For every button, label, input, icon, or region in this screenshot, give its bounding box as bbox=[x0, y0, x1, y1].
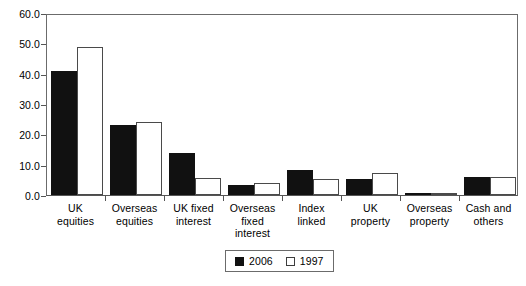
y-tick-mark bbox=[41, 135, 46, 136]
legend-swatch-filled-square-icon bbox=[235, 257, 244, 266]
y-tick-mark bbox=[41, 75, 46, 76]
bar-group bbox=[169, 15, 221, 195]
legend-label: 2006 bbox=[249, 256, 273, 267]
bar-2006-index-linked bbox=[287, 170, 313, 195]
bar-1997-uk-equities bbox=[77, 47, 103, 195]
x-axis-label: UK equities bbox=[46, 202, 105, 227]
x-axis-label: Index linked bbox=[282, 202, 341, 227]
x-axis-label: Overseas fixed interest bbox=[223, 202, 282, 240]
bar-chart: 60.0 50.0 40.0 30.0 20.0 10.0 0.0 UK equ… bbox=[0, 0, 526, 286]
x-axis-tick bbox=[341, 196, 342, 201]
bar-2006-cash-and-others bbox=[464, 177, 490, 195]
y-tick-label: 30.0 bbox=[0, 100, 40, 110]
bar-2006-overseas-property bbox=[405, 193, 431, 195]
bar-2006-overseas-fixed-interest bbox=[228, 185, 254, 195]
bar-group bbox=[228, 15, 280, 195]
bar-group bbox=[464, 15, 516, 195]
bar-group bbox=[405, 15, 457, 195]
y-tick-label: 0.0 bbox=[0, 191, 40, 201]
y-axis: 60.0 50.0 40.0 30.0 20.0 10.0 0.0 bbox=[0, 0, 40, 286]
plot-area-frame bbox=[46, 14, 518, 196]
y-tick-mark bbox=[41, 14, 46, 15]
bar-2006-overseas-equities bbox=[110, 125, 136, 195]
x-axis-tick bbox=[400, 196, 401, 201]
x-axis-label: UK fixed interest bbox=[164, 202, 223, 227]
bar-1997-overseas-property bbox=[431, 193, 457, 195]
legend-label: 1997 bbox=[300, 256, 324, 267]
legend-swatch-hollow-square-icon bbox=[286, 257, 295, 266]
x-axis-label: Overseas property bbox=[400, 202, 459, 227]
x-axis-tick bbox=[164, 196, 165, 201]
bar-1997-index-linked bbox=[313, 179, 339, 195]
bar-1997-overseas-equities bbox=[136, 122, 162, 195]
y-tick-mark bbox=[41, 105, 46, 106]
y-tick-label: 50.0 bbox=[0, 39, 40, 49]
x-axis-tick bbox=[282, 196, 283, 201]
bar-1997-cash-and-others bbox=[490, 177, 516, 195]
plot-area bbox=[47, 15, 517, 195]
bar-2006-uk-fixed-interest bbox=[169, 153, 195, 195]
bar-group bbox=[346, 15, 398, 195]
y-tick-mark bbox=[41, 166, 46, 167]
y-tick-label: 40.0 bbox=[0, 70, 40, 80]
y-tick-mark bbox=[41, 44, 46, 45]
bar-2006-uk-equities bbox=[51, 71, 77, 195]
y-tick-label: 20.0 bbox=[0, 130, 40, 140]
x-axis-tick bbox=[223, 196, 224, 201]
legend: 2006 1997 bbox=[225, 250, 334, 272]
y-tick-label: 10.0 bbox=[0, 161, 40, 171]
x-axis-tick bbox=[459, 196, 460, 201]
bar-group bbox=[287, 15, 339, 195]
bar-group bbox=[110, 15, 162, 195]
legend-entry-2006: 2006 bbox=[235, 256, 273, 267]
bar-2006-uk-property bbox=[346, 179, 372, 195]
y-tick-mark bbox=[41, 196, 46, 197]
x-axis-label: Overseas equities bbox=[105, 202, 164, 227]
x-axis-label: Cash and others bbox=[459, 202, 518, 227]
x-axis-tick bbox=[105, 196, 106, 201]
bar-1997-overseas-fixed-interest bbox=[254, 183, 280, 195]
legend-entry-1997: 1997 bbox=[286, 256, 324, 267]
bar-1997-uk-fixed-interest bbox=[195, 178, 221, 195]
bar-1997-uk-property bbox=[372, 173, 398, 195]
x-axis-label: UK property bbox=[341, 202, 400, 227]
x-axis-labels: UK equitiesOverseas equitiesUK fixed int… bbox=[46, 202, 518, 246]
y-tick-label: 60.0 bbox=[0, 9, 40, 19]
bar-group bbox=[51, 15, 103, 195]
